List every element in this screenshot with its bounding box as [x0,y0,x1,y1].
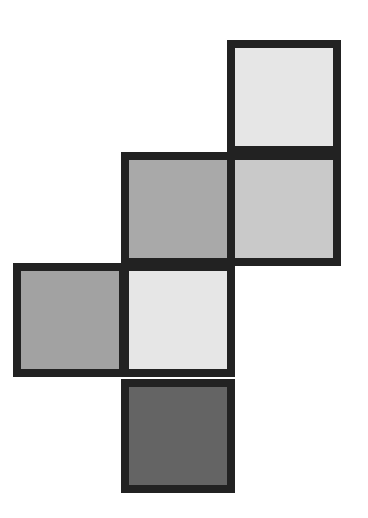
net-face-bottom [121,379,235,493]
net-face-middle-left [121,152,235,266]
net-face-middle-right [227,152,341,266]
net-face-lower-left [13,263,127,377]
net-face-lower-center [121,263,235,377]
cube-net-diagram [0,0,368,518]
net-face-top [227,40,341,154]
